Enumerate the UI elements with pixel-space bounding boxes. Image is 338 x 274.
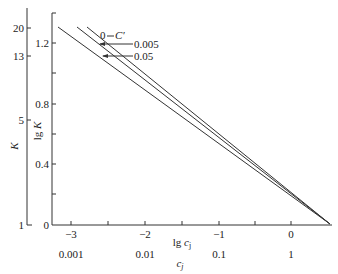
lgk-tick-0: 0 — [44, 219, 50, 231]
label-c-0: 0 — [100, 29, 106, 41]
lgk-tick-0.4: 0.4 — [35, 158, 49, 170]
line-0 — [87, 27, 330, 224]
chart: 20 13 5 1 K 1.2 0.8 0.4 0 lg K −3 −2 −1 … — [0, 0, 338, 274]
line-0.005 — [77, 27, 330, 224]
lgk-tick-0.8: 0.8 — [35, 98, 49, 110]
c-axis-label: cj — [176, 257, 184, 271]
label-c-prime: C′ — [115, 29, 125, 41]
k-tick-5: 5 — [19, 114, 25, 126]
x-axis: −3 −2 −1 0 lg cj 0.001 0.01 0.1 1 cj — [52, 221, 332, 271]
series-lines — [58, 27, 330, 224]
k-axis-label: K — [8, 142, 20, 151]
x-tick-0: 0 — [288, 228, 294, 240]
line-0.05 — [58, 27, 330, 224]
x-tick-m1: −1 — [213, 228, 225, 240]
lgk-tick-1.2: 1.2 — [35, 37, 49, 49]
c-tick-0.01: 0.01 — [135, 248, 154, 260]
x-tick-m3: −3 — [65, 228, 77, 240]
k-tick-20: 20 — [13, 22, 25, 34]
x-axis-label: lg cj — [173, 236, 191, 250]
label-0.005: 0.005 — [134, 38, 159, 50]
k-tick-13: 13 — [13, 50, 25, 62]
lgk-axis-label: lg K — [31, 121, 43, 140]
k-tick-1: 1 — [19, 219, 25, 231]
k-axis: 20 13 5 1 K — [8, 8, 32, 231]
legend-annotations: 0 C′ 0.005 0.05 — [99, 29, 159, 62]
c-tick-0.1: 0.1 — [212, 248, 226, 260]
c-tick-1: 1 — [288, 248, 294, 260]
x-tick-m2: −2 — [139, 228, 151, 240]
label-0.05: 0.05 — [134, 50, 154, 62]
c-tick-0.001: 0.001 — [59, 248, 84, 260]
lgk-axis: 1.2 0.8 0.4 0 lg K — [31, 13, 56, 231]
